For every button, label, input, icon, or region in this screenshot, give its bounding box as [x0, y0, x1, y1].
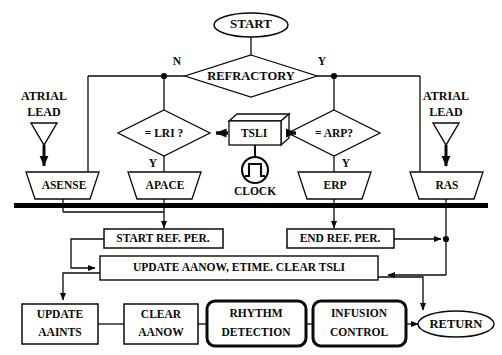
node-arp-label: = ARP?: [315, 127, 353, 139]
node-start-label: START: [230, 16, 272, 31]
flowchart-canvas: START REFRACTORY N Y = LRI ? Y = ARP? Y …: [0, 0, 502, 355]
node-atrial-lead-right-label-line1: ATRIAL: [423, 89, 469, 103]
node-atrial-lead-left-label-line1: ATRIAL: [21, 89, 67, 103]
node-lri-label: = LRI ?: [145, 127, 184, 139]
node-update-aanow-label: UPDATE AANOW, ETIME. CLEAR TSLI: [133, 261, 345, 273]
node-rhythm-detection-label-line1: RHYTHM: [229, 307, 282, 319]
junction-dot-ras-column: [443, 236, 449, 242]
node-atrial-lead-right-label-line2: LEAD: [429, 105, 463, 119]
node-atrial-lead-left-triangle: [31, 123, 57, 145]
node-infusion-control-label-line2: CONTROL: [330, 326, 388, 338]
node-ras-label: RAS: [435, 179, 458, 191]
node-infusion-control-label-line1: INFUSION: [331, 307, 388, 319]
node-return-label: RETURN: [430, 317, 483, 331]
node-clear-aanow-label-line1: CLEAR: [141, 308, 182, 320]
node-atrial-lead-left-label-line2: LEAD: [27, 105, 61, 119]
edge-label-arp-yes: Y: [342, 157, 351, 169]
node-clock-label: CLOCK: [234, 185, 276, 197]
node-tsli-label: TSLI: [241, 127, 268, 139]
node-clock-circle: [242, 157, 268, 183]
edge-start-ref-per-to-update: [71, 239, 104, 268]
node-asense-label: ASENSE: [42, 179, 87, 191]
junction-dot-no: [161, 73, 167, 79]
edge-label-refractory-yes: Y: [318, 55, 327, 67]
edge-label-refractory-no: N: [173, 55, 182, 67]
node-atrial-lead-right-triangle: [433, 123, 459, 145]
node-clear-aanow-label-line2: AANOW: [138, 326, 184, 338]
junction-dot-yes: [331, 73, 337, 79]
node-end-ref-per-label: END REF. PER.: [300, 232, 381, 244]
system-bus-bar: [14, 203, 488, 208]
node-update-aaints-label-line2: AAINTS: [38, 326, 81, 338]
node-apace-label: APACE: [146, 179, 185, 191]
node-update-aaints-label-line1: UPDATE: [37, 308, 84, 320]
node-tsli-top-face: [229, 114, 289, 121]
node-start-ref-per-label: START REF. PER.: [116, 232, 209, 244]
node-refractory-label: REFRACTORY: [207, 69, 295, 83]
node-rhythm-detection-label-line2: DETECTION: [221, 326, 291, 338]
node-erp-label: ERP: [324, 179, 347, 191]
edge-label-lri-yes: Y: [149, 157, 158, 169]
flowchart-svg: START REFRACTORY N Y = LRI ? Y = ARP? Y …: [0, 0, 502, 355]
edge-update-to-update-aaints: [63, 273, 100, 300]
